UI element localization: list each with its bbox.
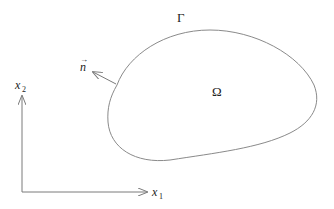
x2-axis-label: x 2 — [14, 78, 26, 94]
boundary-label: Γ — [177, 10, 185, 25]
svg-text:x: x — [151, 185, 158, 199]
svg-text:1: 1 — [159, 192, 163, 201]
x1-axis-label: x 1 — [151, 185, 163, 201]
normal-vector-arrow — [93, 72, 116, 84]
svg-text:x: x — [14, 78, 21, 92]
normal-label: n → — [80, 55, 88, 74]
domain-diagram: Γ Ω n → x 2 x 1 — [0, 0, 334, 209]
vector-arrow-mark: → — [80, 55, 88, 64]
svg-text:2: 2 — [22, 85, 26, 94]
domain-label: Ω — [212, 84, 222, 99]
